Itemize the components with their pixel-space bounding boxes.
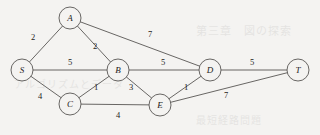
- node-label-e: E: [156, 100, 163, 110]
- node-label-c: C: [67, 99, 74, 109]
- node-label-s: S: [20, 65, 25, 75]
- graph-node-t: T: [287, 59, 309, 81]
- edge-weight-b-d: 5: [161, 57, 165, 67]
- edge-weight-b-e: 3: [129, 82, 133, 92]
- graph-node-d: D: [199, 59, 221, 81]
- graph-node-c: C: [59, 93, 81, 115]
- edge-weight-a-d: 7: [148, 29, 152, 39]
- graph-node-b: B: [107, 59, 129, 81]
- node-label-b: B: [115, 65, 121, 75]
- graph-canvas: SABCDET 254275134157: [0, 0, 320, 135]
- edge-weight-a-b: 2: [93, 41, 97, 51]
- graph-edge-c-e: [81, 104, 149, 105]
- edge-weight-e-t: 7: [224, 90, 228, 100]
- node-label-a: A: [66, 13, 73, 23]
- graph-node-e: E: [149, 94, 171, 116]
- edge-weight-s-a: 2: [31, 32, 35, 42]
- graph-edge-s-c: [31, 76, 61, 97]
- graph-edge-e-t: [171, 73, 288, 103]
- graph-node-a: A: [59, 7, 81, 29]
- edge-weight-d-t: 5: [250, 57, 254, 67]
- edge-weight-s-b: 5: [68, 57, 72, 67]
- edge-weight-b-c: 1: [94, 82, 98, 92]
- edge-weight-s-c: 4: [38, 91, 43, 101]
- graph-edge-a-d: [80, 22, 199, 66]
- node-label-d: D: [206, 65, 214, 75]
- edge-weight-d-e: 1: [184, 82, 188, 92]
- edge-weight-c-e: 4: [116, 110, 121, 120]
- graph-node-s: S: [11, 59, 33, 81]
- graph-figure: 第三章 図の探索アルゴリズムとデータ最短経路問題 SABCDET 2542751…: [0, 0, 320, 135]
